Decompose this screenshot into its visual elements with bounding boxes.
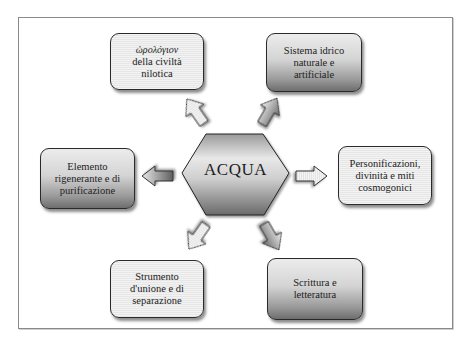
node-line: artificiale	[284, 69, 344, 81]
node-line: Scrittura e	[293, 277, 336, 289]
node-line: divinità e miti	[350, 170, 421, 182]
arrow-top-left	[178, 93, 213, 130]
node-line: cosmogonici	[350, 182, 421, 194]
node-horologion: ὡρολόγιον della civiltà nilotica	[110, 33, 204, 90]
node-water-system: Sistema idrico naturale e artificiale	[266, 33, 362, 92]
arrow-left	[142, 166, 173, 186]
node-line: ὡρολόγιον	[132, 44, 181, 56]
node-line: Sistema idrico	[284, 45, 344, 57]
node-purification: Elemento rigenerante e di purificazione	[40, 148, 135, 209]
node-line: separazione	[130, 295, 184, 307]
arrow-right	[296, 166, 327, 186]
node-line: letteratura	[293, 289, 336, 301]
node-line: rigenerante e di	[55, 173, 120, 185]
arrow-bottom-right	[254, 218, 288, 255]
node-personifications: Personificazioni, divinità e miti cosmog…	[338, 146, 432, 205]
node-line: naturale e	[284, 57, 344, 69]
node-line: Elemento	[55, 161, 120, 173]
node-writing-literature: Scrittura e letteratura	[267, 258, 363, 320]
node-line: Personificazioni,	[350, 158, 421, 170]
node-line: d'unione e di	[130, 283, 184, 295]
node-line: nilotica	[132, 68, 181, 80]
node-union-separation: Strumento d'unione e di separazione	[110, 260, 204, 318]
node-line: Strumento	[130, 271, 184, 283]
arrow-top-right	[252, 93, 286, 130]
center-label: ACQUA	[182, 160, 289, 180]
arrow-bottom-left	[180, 218, 215, 255]
node-line: della civiltà	[132, 56, 181, 68]
node-line: purificazione	[55, 185, 120, 197]
